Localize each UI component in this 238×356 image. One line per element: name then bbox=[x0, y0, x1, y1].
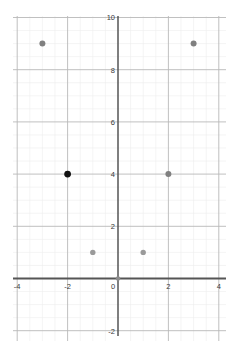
x-tick-label: 4 bbox=[217, 282, 221, 291]
y-tick-label: 2 bbox=[111, 222, 115, 231]
y-tick-label: 4 bbox=[111, 170, 115, 179]
data-point bbox=[90, 250, 95, 255]
data-point bbox=[116, 276, 120, 280]
data-point bbox=[191, 41, 197, 47]
plot-canvas: -4-2024 -2246810 bbox=[0, 0, 238, 356]
data-point bbox=[165, 171, 171, 177]
x-tick-label: -2 bbox=[64, 282, 71, 291]
y-tick-label: 6 bbox=[111, 118, 115, 127]
scatter-plot-figure: -4-2024 -2246810 bbox=[0, 0, 238, 356]
y-tick-label: -2 bbox=[108, 327, 115, 336]
plot-background bbox=[0, 0, 238, 356]
x-tick-label: 2 bbox=[166, 282, 170, 291]
y-tick-label: 8 bbox=[111, 66, 115, 75]
data-point-highlighted bbox=[64, 171, 71, 178]
x-tick-label: -4 bbox=[14, 282, 21, 291]
data-point bbox=[39, 41, 45, 47]
y-tick-label: 10 bbox=[107, 13, 115, 22]
data-point bbox=[141, 250, 146, 255]
x-tick-label: 0 bbox=[111, 282, 115, 291]
